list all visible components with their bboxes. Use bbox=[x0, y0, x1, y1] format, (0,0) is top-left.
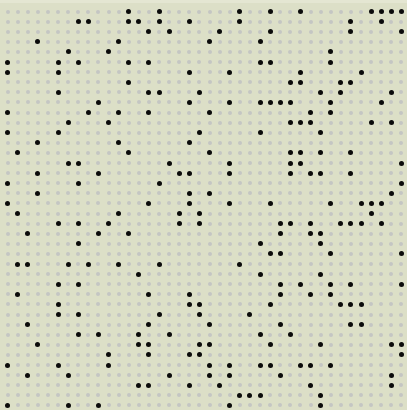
empty-dot[interactable] bbox=[197, 50, 201, 54]
empty-dot[interactable] bbox=[6, 323, 10, 327]
empty-dot[interactable] bbox=[258, 212, 262, 216]
empty-dot[interactable] bbox=[157, 302, 161, 306]
empty-dot[interactable] bbox=[218, 302, 222, 306]
empty-dot[interactable] bbox=[56, 30, 60, 34]
empty-dot[interactable] bbox=[228, 333, 232, 337]
empty-dot[interactable] bbox=[127, 262, 131, 266]
empty-dot[interactable] bbox=[238, 403, 242, 407]
empty-dot[interactable] bbox=[369, 232, 373, 236]
empty-dot[interactable] bbox=[137, 252, 141, 256]
empty-dot[interactable] bbox=[339, 50, 343, 54]
empty-dot[interactable] bbox=[46, 343, 50, 347]
empty-dot[interactable] bbox=[399, 121, 403, 125]
empty-dot[interactable] bbox=[238, 242, 242, 246]
empty-dot[interactable] bbox=[66, 201, 70, 205]
empty-dot[interactable] bbox=[349, 100, 353, 104]
empty-dot[interactable] bbox=[379, 302, 383, 306]
empty-dot[interactable] bbox=[86, 212, 90, 216]
empty-dot[interactable] bbox=[238, 111, 242, 115]
empty-dot[interactable] bbox=[86, 252, 90, 256]
empty-dot[interactable] bbox=[137, 30, 141, 34]
empty-dot[interactable] bbox=[26, 363, 30, 367]
empty-dot[interactable] bbox=[228, 191, 232, 195]
empty-dot[interactable] bbox=[369, 191, 373, 195]
filled-dot[interactable] bbox=[187, 70, 192, 75]
empty-dot[interactable] bbox=[127, 272, 131, 276]
empty-dot[interactable] bbox=[86, 40, 90, 44]
empty-dot[interactable] bbox=[359, 171, 363, 175]
filled-dot[interactable] bbox=[278, 373, 283, 378]
empty-dot[interactable] bbox=[258, 111, 262, 115]
empty-dot[interactable] bbox=[208, 131, 212, 135]
filled-dot[interactable] bbox=[66, 120, 71, 125]
empty-dot[interactable] bbox=[36, 100, 40, 104]
empty-dot[interactable] bbox=[167, 363, 171, 367]
filled-dot[interactable] bbox=[15, 292, 20, 297]
empty-dot[interactable] bbox=[208, 212, 212, 216]
empty-dot[interactable] bbox=[369, 131, 373, 135]
empty-dot[interactable] bbox=[197, 201, 201, 205]
empty-dot[interactable] bbox=[369, 60, 373, 64]
empty-dot[interactable] bbox=[177, 201, 181, 205]
empty-dot[interactable] bbox=[228, 10, 232, 14]
empty-dot[interactable] bbox=[46, 181, 50, 185]
empty-dot[interactable] bbox=[137, 302, 141, 306]
empty-dot[interactable] bbox=[26, 100, 30, 104]
filled-dot[interactable] bbox=[187, 171, 192, 176]
empty-dot[interactable] bbox=[288, 30, 292, 34]
empty-dot[interactable] bbox=[258, 151, 262, 155]
empty-dot[interactable] bbox=[228, 292, 232, 296]
empty-dot[interactable] bbox=[36, 121, 40, 125]
empty-dot[interactable] bbox=[177, 353, 181, 357]
empty-dot[interactable] bbox=[349, 353, 353, 357]
empty-dot[interactable] bbox=[46, 131, 50, 135]
empty-dot[interactable] bbox=[76, 302, 80, 306]
filled-dot[interactable] bbox=[56, 302, 61, 307]
empty-dot[interactable] bbox=[66, 90, 70, 94]
empty-dot[interactable] bbox=[127, 121, 131, 125]
empty-dot[interactable] bbox=[228, 80, 232, 84]
empty-dot[interactable] bbox=[157, 80, 161, 84]
empty-dot[interactable] bbox=[339, 70, 343, 74]
filled-dot[interactable] bbox=[268, 251, 273, 256]
empty-dot[interactable] bbox=[177, 161, 181, 165]
empty-dot[interactable] bbox=[26, 30, 30, 34]
empty-dot[interactable] bbox=[288, 302, 292, 306]
empty-dot[interactable] bbox=[56, 262, 60, 266]
empty-dot[interactable] bbox=[248, 171, 252, 175]
empty-dot[interactable] bbox=[258, 191, 262, 195]
filled-dot[interactable] bbox=[348, 322, 353, 327]
filled-dot[interactable] bbox=[146, 60, 151, 65]
empty-dot[interactable] bbox=[238, 70, 242, 74]
empty-dot[interactable] bbox=[6, 262, 10, 266]
filled-dot[interactable] bbox=[197, 221, 202, 226]
empty-dot[interactable] bbox=[86, 181, 90, 185]
empty-dot[interactable] bbox=[298, 292, 302, 296]
empty-dot[interactable] bbox=[379, 403, 383, 407]
empty-dot[interactable] bbox=[76, 252, 80, 256]
empty-dot[interactable] bbox=[167, 50, 171, 54]
empty-dot[interactable] bbox=[76, 353, 80, 357]
empty-dot[interactable] bbox=[86, 191, 90, 195]
empty-dot[interactable] bbox=[197, 323, 201, 327]
empty-dot[interactable] bbox=[288, 131, 292, 135]
empty-dot[interactable] bbox=[16, 222, 20, 226]
filled-dot[interactable] bbox=[146, 322, 151, 327]
empty-dot[interactable] bbox=[197, 383, 201, 387]
empty-dot[interactable] bbox=[76, 373, 80, 377]
empty-dot[interactable] bbox=[16, 20, 20, 24]
empty-dot[interactable] bbox=[329, 232, 333, 236]
empty-dot[interactable] bbox=[218, 201, 222, 205]
empty-dot[interactable] bbox=[76, 363, 80, 367]
empty-dot[interactable] bbox=[76, 343, 80, 347]
empty-dot[interactable] bbox=[137, 181, 141, 185]
empty-dot[interactable] bbox=[339, 313, 343, 317]
empty-dot[interactable] bbox=[218, 191, 222, 195]
empty-dot[interactable] bbox=[107, 30, 111, 34]
filled-dot[interactable] bbox=[56, 221, 61, 226]
empty-dot[interactable] bbox=[339, 141, 343, 145]
empty-dot[interactable] bbox=[379, 161, 383, 165]
filled-dot[interactable] bbox=[328, 100, 333, 105]
empty-dot[interactable] bbox=[6, 393, 10, 397]
filled-dot[interactable] bbox=[268, 9, 273, 14]
